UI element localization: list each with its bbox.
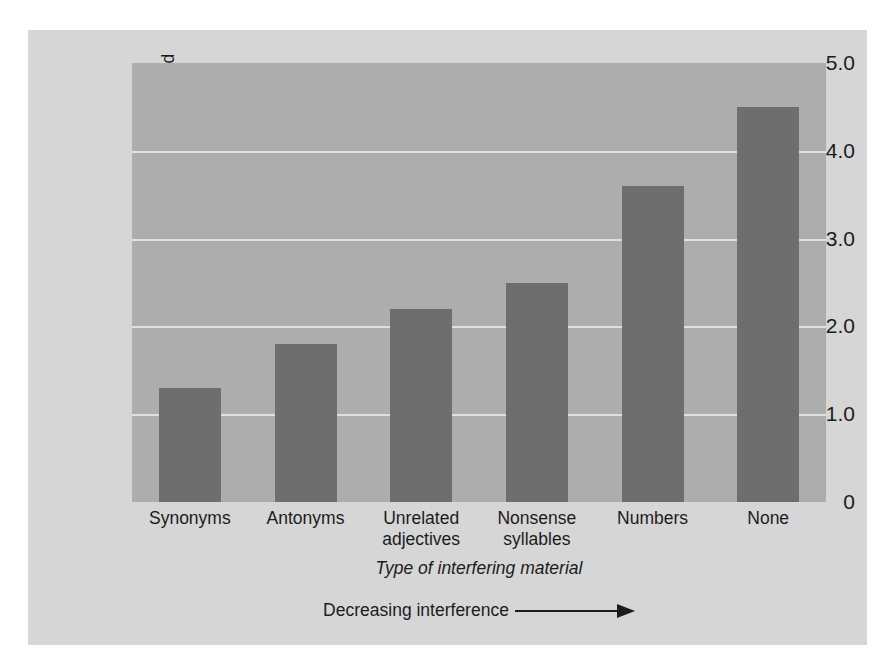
x-label-line: Antonyms (248, 508, 364, 529)
bar-unrelated-adjectives[interactable] (390, 309, 452, 502)
bar-nonsense-syllables[interactable] (506, 283, 568, 503)
bar-slot (363, 63, 479, 502)
decreasing-interference-annotation: Decreasing interference (132, 600, 826, 621)
x-label-antonyms: Antonyms (248, 508, 364, 550)
bar-synonyms[interactable] (159, 388, 221, 502)
x-label-line: Synonyms (132, 508, 248, 529)
x-label-none: None (710, 508, 826, 550)
bar-antonyms[interactable] (275, 344, 337, 502)
bar-none[interactable] (737, 107, 799, 502)
x-label-line: syllables (479, 529, 595, 550)
bar-series (132, 63, 826, 502)
x-label-line: Unrelated (363, 508, 479, 529)
x-label-line: adjectives (363, 529, 479, 550)
right-arrow-icon (515, 602, 635, 620)
x-label-line: Nonsense (479, 508, 595, 529)
x-label-nonsense-syllables: Nonsense syllables (479, 508, 595, 550)
x-label-line: Numbers (595, 508, 711, 529)
bar-slot (595, 63, 711, 502)
x-axis-labels: Synonyms Antonyms Unrelated adjectives N… (132, 508, 826, 550)
bar-slot (710, 63, 826, 502)
plot-area (132, 63, 826, 502)
x-label-unrelated-adjectives: Unrelated adjectives (363, 508, 479, 550)
x-axis-title: Type of interfering material (132, 558, 826, 579)
bar-slot (248, 63, 364, 502)
bar-numbers[interactable] (622, 186, 684, 502)
chart-figure: Mean number of test items recalled 5.0 4… (28, 30, 867, 645)
x-label-line: None (710, 508, 826, 529)
bar-slot (479, 63, 595, 502)
x-label-numbers: Numbers (595, 508, 711, 550)
x-label-synonyms: Synonyms (132, 508, 248, 550)
annotation-label: Decreasing interference (323, 600, 509, 621)
bar-slot (132, 63, 248, 502)
